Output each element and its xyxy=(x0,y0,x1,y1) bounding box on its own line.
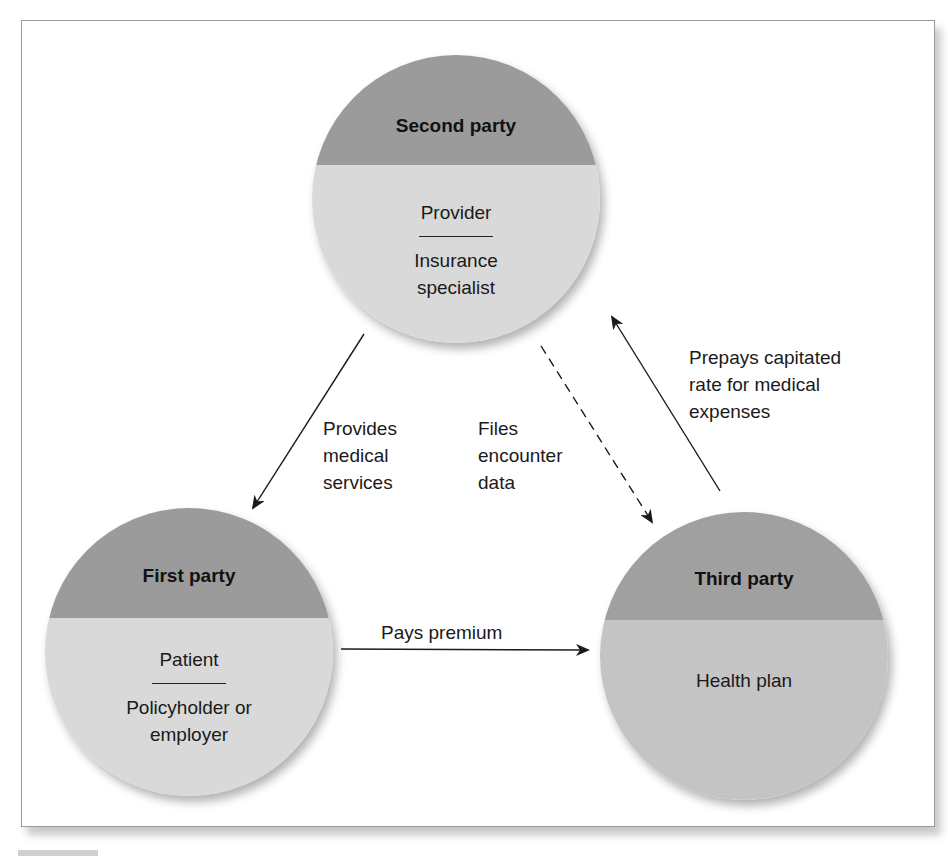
second-party-title: Second party xyxy=(312,115,600,137)
first-party-node: First party Patient Policyholder or empl… xyxy=(45,508,333,796)
second-party-body: Provider Insurance specialist xyxy=(312,165,600,343)
second-party-header: Second party xyxy=(312,55,600,165)
third-party-primary-role: Health plan xyxy=(600,667,888,694)
label-pays-premium: Pays premium xyxy=(381,619,502,646)
label-files-encounter-data: Files encounter data xyxy=(478,415,563,496)
role-divider xyxy=(152,683,226,684)
cropped-caption-fragment xyxy=(18,850,98,856)
third-party-body: Health plan xyxy=(600,620,888,800)
third-party-header: Third party xyxy=(600,512,888,620)
second-party-primary-role: Provider xyxy=(312,199,600,226)
label-provides-medical-services: Provides medical services xyxy=(323,415,397,496)
third-party-title: Third party xyxy=(600,568,888,590)
first-party-title: First party xyxy=(45,565,333,587)
label-prepays-capitated-rate: Prepays capitated rate for medical expen… xyxy=(689,344,841,425)
first-party-header: First party xyxy=(45,508,333,618)
first-party-secondary-role: Policyholder or employer xyxy=(119,694,259,748)
second-party-node: Second party Provider Insurance speciali… xyxy=(312,55,600,343)
first-party-primary-role: Patient xyxy=(45,646,333,673)
second-party-secondary-role: Insurance specialist xyxy=(391,247,521,301)
role-divider xyxy=(419,236,493,237)
third-party-node: Third party Health plan xyxy=(600,512,888,800)
first-party-body: Patient Policyholder or employer xyxy=(45,618,333,796)
